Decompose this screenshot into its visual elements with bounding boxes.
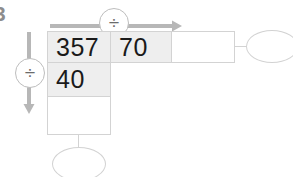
answer-oval-right[interactable]: [246, 30, 293, 63]
grid-cell-r1c2[interactable]: 70: [110, 31, 172, 63]
grid-cell-r1c3[interactable]: [171, 31, 235, 63]
connector-bottom: [78, 134, 79, 148]
answer-oval-bottom[interactable]: [52, 147, 106, 177]
grid-cell-r3c1[interactable]: [47, 96, 111, 135]
worksheet-canvas: 3 ÷ ÷ 357 70 40: [0, 0, 293, 177]
problem-number: 3: [0, 2, 12, 26]
grid-cell-r2c1[interactable]: 40: [47, 62, 111, 97]
grid-cell-r1c1[interactable]: 357: [47, 31, 111, 63]
division-operator-left: ÷: [15, 58, 45, 88]
